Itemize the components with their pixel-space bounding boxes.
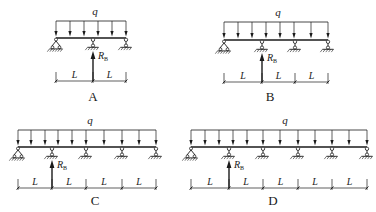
arrowhead-icon — [261, 140, 264, 146]
arrowhead-icon — [313, 140, 316, 146]
arrowhead-icon — [70, 140, 73, 146]
reaction-label-rb: RB — [266, 52, 277, 64]
span-label-l: L — [277, 176, 284, 187]
diagram-b-three-span-beam: qRBLLLB — [215, 6, 333, 104]
arrowhead-icon — [54, 31, 57, 37]
arrowhead-icon — [278, 33, 281, 39]
arrowhead-icon — [292, 33, 295, 39]
arrowhead-icon — [203, 140, 206, 146]
roller-support-icon — [148, 147, 161, 159]
pinned-support-icon — [182, 147, 197, 161]
arrowhead-icon — [29, 140, 32, 146]
roller-support-icon — [221, 147, 234, 159]
pinned-support-icon — [215, 40, 230, 54]
load-label-q: q — [87, 114, 93, 126]
diagram-caption: C — [91, 193, 100, 208]
span-label-l: L — [242, 176, 249, 187]
arrowhead-icon — [365, 140, 368, 146]
arrowhead-icon — [245, 140, 248, 146]
span-label-l: L — [346, 176, 353, 187]
roller-support-icon — [78, 147, 91, 159]
arrowhead-icon — [330, 140, 333, 146]
roller-support-icon — [290, 147, 303, 159]
pinned-support-icon — [47, 38, 62, 52]
roller-support-icon — [118, 38, 131, 50]
reaction-arrowhead-icon — [227, 160, 232, 168]
arrowhead-icon — [326, 33, 329, 39]
diagram-caption: A — [88, 89, 98, 104]
span-label-l: L — [65, 176, 72, 187]
arrowhead-icon — [347, 140, 350, 146]
pinned-support-icon — [9, 147, 24, 161]
roller-support-icon — [114, 147, 127, 159]
dimension-line: LL — [55, 69, 128, 83]
reaction-label-rb: RB — [233, 159, 244, 171]
distributed-load-q — [54, 21, 127, 37]
arrowhead-icon — [231, 140, 234, 146]
beam-diagrams-canvas: qRBLLA qRBLLLB qRBLLLLC qRBLLLLLD — [0, 0, 376, 212]
roller-support-icon — [287, 40, 300, 52]
dimension-line: LLL — [223, 70, 330, 84]
diagram-a-two-span-beam: qRBLLA — [47, 5, 131, 104]
span-label-l: L — [275, 70, 282, 81]
roller-support-icon — [44, 147, 57, 159]
arrowhead-icon — [124, 31, 127, 37]
roller-support-icon — [359, 147, 372, 159]
span-label-l: L — [106, 69, 113, 80]
arrowhead-icon — [278, 140, 281, 146]
reaction-arrowhead-icon — [260, 53, 265, 61]
arrowhead-icon — [16, 140, 19, 146]
arrowhead-icon — [82, 31, 85, 37]
reaction-arrowhead-icon — [91, 51, 96, 59]
roller-support-icon — [254, 40, 267, 52]
arrowhead-icon — [250, 33, 253, 39]
span-label-l: L — [71, 69, 78, 80]
load-label-q: q — [92, 5, 98, 17]
arrowhead-icon — [56, 140, 59, 146]
diagram-d-five-span-beam: qRBLLLLLD — [182, 114, 372, 208]
arrowhead-icon — [217, 140, 220, 146]
arrowhead-icon — [102, 140, 105, 146]
span-label-l: L — [100, 176, 107, 187]
arrowhead-icon — [137, 140, 140, 146]
span-label-l: L — [308, 70, 315, 81]
span-label-l: L — [239, 70, 246, 81]
roller-support-icon — [255, 147, 268, 159]
reaction-label-rb: RB — [97, 50, 108, 62]
reaction-label-rb: RB — [56, 159, 67, 171]
arrowhead-icon — [309, 33, 312, 39]
arrowhead-icon — [110, 31, 113, 37]
diagram-caption: D — [268, 193, 277, 208]
distributed-load-q — [222, 22, 329, 39]
arrowhead-icon — [68, 31, 71, 37]
roller-support-icon — [320, 40, 333, 52]
span-label-l: L — [31, 176, 38, 187]
distributed-load-q — [189, 130, 368, 146]
arrowhead-icon — [43, 140, 46, 146]
span-label-l: L — [206, 176, 213, 187]
roller-support-icon — [85, 38, 98, 50]
arrowhead-icon — [189, 140, 192, 146]
arrowhead-icon — [84, 140, 87, 146]
arrowhead-icon — [296, 140, 299, 146]
arrowhead-icon — [154, 140, 157, 146]
arrowhead-icon — [264, 33, 267, 39]
span-label-l: L — [311, 176, 318, 187]
diagram-c-four-span-beam: qRBLLLLC — [9, 114, 161, 208]
dimension-line: LLLL — [17, 176, 158, 190]
load-label-q: q — [282, 114, 288, 126]
span-label-l: L — [135, 176, 142, 187]
arrowhead-icon — [120, 140, 123, 146]
distributed-load-q — [16, 130, 157, 146]
arrowhead-icon — [96, 31, 99, 37]
arrowhead-icon — [236, 33, 239, 39]
dimension-line: LLLLL — [190, 176, 369, 190]
diagram-caption: B — [266, 89, 275, 104]
arrowhead-icon — [222, 33, 225, 39]
roller-support-icon — [324, 147, 337, 159]
reaction-arrowhead-icon — [50, 160, 55, 168]
load-label-q: q — [275, 6, 281, 18]
